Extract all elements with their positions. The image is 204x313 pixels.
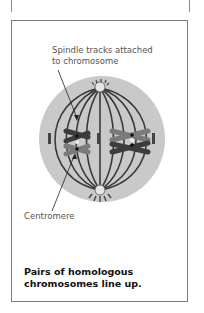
caption-line2: chromosomes line up. [24, 278, 142, 290]
figure-caption: Pairs of homologous chromosomes line up. [24, 266, 142, 290]
centromere-label: Centromere [24, 211, 74, 221]
spindle-label-line1: Spindle tracks attached [52, 45, 153, 56]
spindle-tracks-label: Spindle tracks attached to chromosome [52, 45, 153, 67]
caption-line1: Pairs of homologous [24, 266, 142, 278]
spindle-label-line2: to chromosome [52, 56, 153, 67]
